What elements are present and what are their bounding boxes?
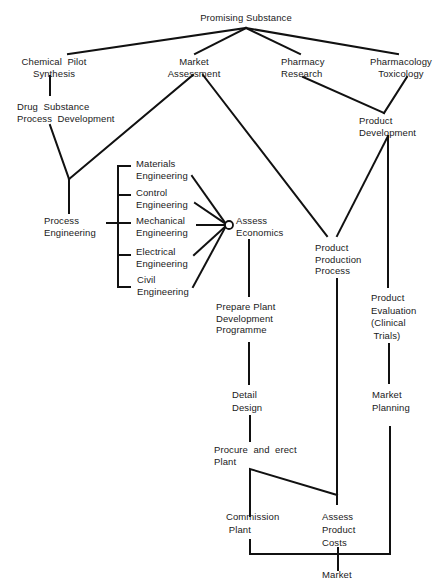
- node-procure-and-erect-plant: Procure and erect Plant: [214, 444, 297, 468]
- node-assess-product-costs: Assess Product Costs: [322, 510, 355, 549]
- node-pharmacy-research: Pharmacy Research: [281, 56, 325, 79]
- node-assess-economics: Assess Economics: [236, 215, 283, 238]
- node-control-engineering: Control Engineering: [136, 187, 188, 210]
- node-market-planning: Market Planning: [372, 388, 410, 414]
- node-product-production-process: Product Production Process: [315, 242, 361, 277]
- node-market: Market: [322, 569, 352, 581]
- node-product-evaluation-clinical-trials: Product Evaluation (Clinical Trials): [371, 292, 416, 342]
- node-product-development: Product Development: [359, 115, 416, 138]
- node-process-engineering: Process Engineering: [44, 215, 96, 238]
- node-pharmacology-toxicology: Pharmacology Toxicology: [366, 56, 436, 79]
- node-mechanical-engineering: Mechanical Engineering: [136, 215, 188, 238]
- node-civil-engineering: Civil Engineering: [137, 274, 189, 297]
- node-materials-engineering: Materials Engineering: [136, 158, 188, 181]
- node-prepare-plant-development-programme: Prepare Plant Development Programme: [216, 301, 275, 336]
- node-market-assessment: Market Assessment: [164, 56, 224, 79]
- flowchart-diagram: Promising Substance Chemical Pilot Synth…: [0, 0, 443, 587]
- node-commission-plant: Commission Plant: [226, 510, 279, 536]
- node-promising-substance: Promising Substance: [190, 12, 302, 24]
- node-drug-substance-process-development: Drug Substance Process Development: [17, 101, 115, 124]
- node-detail-design: Detail Design: [232, 388, 262, 414]
- node-electrical-engineering: Electrical Engineering: [136, 246, 188, 269]
- node-chemical-pilot-synthesis: Chemical Pilot Synthesis: [14, 56, 94, 79]
